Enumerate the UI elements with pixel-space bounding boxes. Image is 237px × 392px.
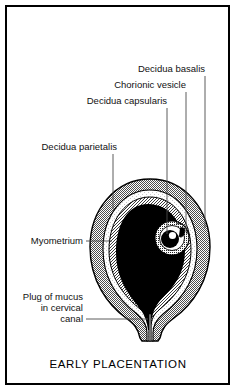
label-myometrium: Myometrium [31,235,83,246]
embryo-disc [161,230,179,248]
label-plug-of-mucus-line-2: in cervical [41,302,83,313]
label-chorionic-vesicle: Chorionic vesicle [114,79,186,90]
embryo-group [155,221,189,255]
uterus-cross-section [90,179,210,341]
figure-root: Decidua basalis Chorionic vesicle Decidu… [0,0,237,392]
label-plug-of-mucus-line-1: Plug of mucus [23,291,83,302]
label-decidua-capsularis: Decidua capsularis [87,95,168,106]
label-decidua-parietalis: Decidua parietalis [41,141,117,152]
embryo-highlight [169,232,176,239]
early-placentation-diagram: Decidua basalis Chorionic vesicle Decidu… [0,0,237,392]
cervical-canal [149,314,151,341]
label-decidua-basalis: Decidua basalis [138,63,205,74]
label-plug-of-mucus-line-3: canal [60,313,83,324]
figure-title: EARLY PLACENTATION [49,358,186,370]
